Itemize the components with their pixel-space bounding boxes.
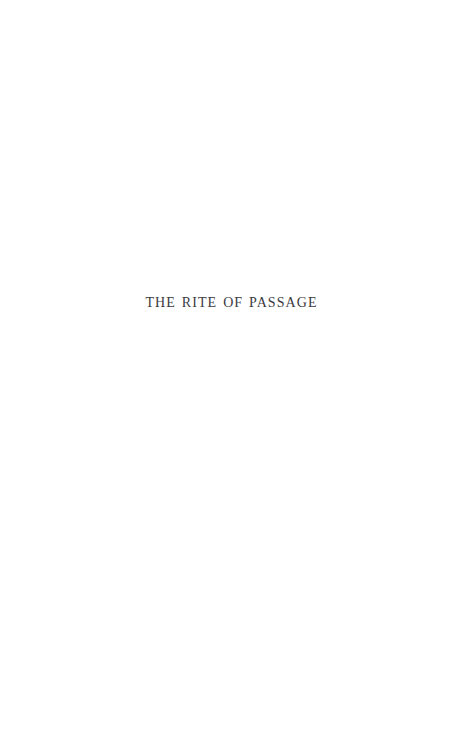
page-surface: THE RITE OF PASSAGE [0, 0, 463, 740]
part-title-block: THE RITE OF PASSAGE [0, 291, 463, 311]
scanned-page: THE RITE OF PASSAGE [0, 0, 463, 740]
part-title: THE RITE OF PASSAGE [145, 291, 317, 311]
